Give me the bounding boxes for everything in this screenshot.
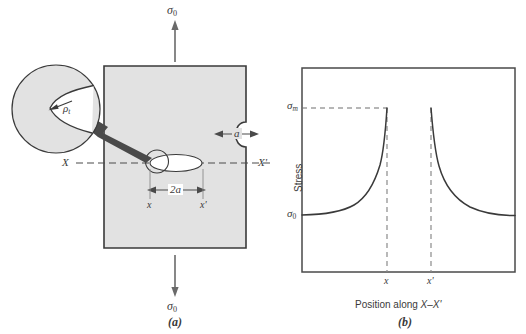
plot-frame	[302, 68, 515, 272]
panel-a-graphics	[0, 0, 290, 334]
crack-tip-left-label: x	[147, 200, 151, 210]
section-line-left-label: X	[62, 157, 69, 168]
x-axis-label: Position along X–X'	[355, 300, 441, 310]
panel-b-caption: (b)	[398, 316, 412, 328]
applied-stress-bottom-label: σ0	[167, 300, 177, 314]
crack-length-label: 2a	[168, 184, 183, 195]
ytick-sigma-0-label: σ0	[287, 208, 296, 221]
panel-a-caption: (a)	[168, 316, 182, 328]
section-line-right-label: X'	[258, 157, 267, 168]
internal-crack	[150, 155, 202, 172]
stress-concentration-figure: σ0 σ0 X X' 2a x x' a ρt (a) σm σ0 Stress…	[0, 0, 526, 334]
crack-tip-right-label: x'	[200, 200, 207, 210]
xtick-xprime-label: x'	[427, 276, 434, 286]
applied-stress-top-arrow	[171, 20, 178, 62]
inset-radius-label: ρt	[63, 103, 70, 116]
panel-b-graphics	[280, 0, 526, 334]
applied-stress-top-label: σ0	[167, 4, 177, 18]
applied-stress-bottom-arrow	[171, 255, 178, 297]
xtick-x-label: x	[384, 276, 388, 286]
ytick-sigma-m-label: σm	[287, 100, 298, 113]
edge-notch-depth-label: a	[232, 128, 242, 139]
y-axis-label-stress: Stress	[294, 164, 304, 192]
